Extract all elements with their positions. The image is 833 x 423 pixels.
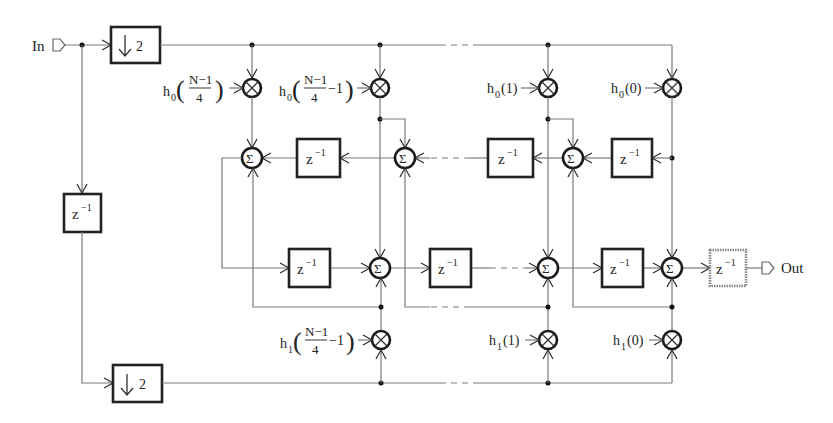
output-label: Out <box>781 260 804 276</box>
input-label: In <box>32 38 45 54</box>
svg-text:−1: −1 <box>619 257 630 268</box>
svg-text:N−1: N−1 <box>304 72 327 87</box>
svg-text:z: z <box>438 261 445 277</box>
output-port: Out <box>762 260 804 276</box>
svg-text:z: z <box>306 151 313 167</box>
coef-label-h0-a: h 0 ( N−1 4 ) <box>163 72 224 105</box>
svg-text:h: h <box>279 84 286 99</box>
svg-text:0: 0 <box>619 89 624 100</box>
svg-text:2: 2 <box>136 39 143 54</box>
svg-text:−1: −1 <box>447 257 458 268</box>
svg-text:(0): (0) <box>627 333 644 349</box>
svg-text:(1): (1) <box>503 333 520 349</box>
svg-text:): ) <box>215 75 224 104</box>
svg-text:−1: −1 <box>725 257 736 268</box>
downsampler-bottom: 2 <box>113 365 162 402</box>
svg-text:4: 4 <box>196 90 203 105</box>
svg-text:h: h <box>489 333 496 348</box>
svg-text:Σ: Σ <box>567 151 575 166</box>
input-port: In <box>32 38 65 54</box>
svg-text:h: h <box>163 84 170 99</box>
svg-text:−1: −1 <box>328 81 343 96</box>
coef-label-h0-1: h 0 (1) <box>487 81 518 100</box>
svg-text:−1: −1 <box>306 257 317 268</box>
svg-text:z: z <box>72 206 79 222</box>
svg-text:0: 0 <box>495 89 500 100</box>
svg-text:Σ: Σ <box>246 151 254 166</box>
coef-label-h0-0: h 0 (0) <box>611 81 642 100</box>
svg-text:1: 1 <box>621 341 626 352</box>
coef-label-h1-0: h 1 (0) <box>613 333 644 352</box>
svg-text:1: 1 <box>497 341 502 352</box>
polyphase-filter-diagram: In 2 h 0 ( N−1 4 ) h 0 ( <box>0 0 833 423</box>
svg-text:z: z <box>297 261 304 277</box>
coef-label-h0-b: h 0 ( N−1 4 −1 ) <box>279 72 354 105</box>
delay-output: z−1 <box>710 250 746 286</box>
downsampler-top: 2 <box>111 27 160 63</box>
svg-text:(: ( <box>293 327 302 356</box>
delay-left: z−1 <box>64 194 101 232</box>
svg-text:−1: −1 <box>315 147 326 158</box>
svg-text:z: z <box>610 261 617 277</box>
svg-text:2: 2 <box>139 377 146 392</box>
svg-text:): ) <box>346 327 355 356</box>
svg-text:Σ: Σ <box>666 261 674 276</box>
svg-text:z: z <box>620 151 627 167</box>
svg-text:): ) <box>345 75 354 104</box>
svg-text:h: h <box>613 333 620 348</box>
svg-text:Σ: Σ <box>374 261 382 276</box>
coef-label-h1-a: h 1 ( N−1 4 −1 ) <box>280 324 355 357</box>
svg-text:4: 4 <box>312 342 319 357</box>
svg-text:−1: −1 <box>507 147 518 158</box>
svg-text:N−1: N−1 <box>189 72 212 87</box>
svg-text:−1: −1 <box>329 333 344 348</box>
svg-text:N−1: N−1 <box>305 324 328 339</box>
coef-label-h1-1: h 1 (1) <box>489 333 520 352</box>
svg-text:4: 4 <box>311 90 318 105</box>
svg-text:h: h <box>487 81 494 96</box>
svg-text:(0): (0) <box>625 81 642 97</box>
svg-text:h: h <box>280 336 287 351</box>
svg-text:(1): (1) <box>501 81 518 97</box>
svg-text:−1: −1 <box>81 202 92 213</box>
svg-text:(: ( <box>176 75 185 104</box>
svg-text:Σ: Σ <box>399 151 407 166</box>
svg-text:z: z <box>716 261 723 277</box>
svg-text:(: ( <box>292 75 301 104</box>
svg-text:h: h <box>611 81 618 96</box>
svg-text:z: z <box>498 151 505 167</box>
svg-text:−1: −1 <box>629 147 640 158</box>
svg-text:Σ: Σ <box>542 261 550 276</box>
